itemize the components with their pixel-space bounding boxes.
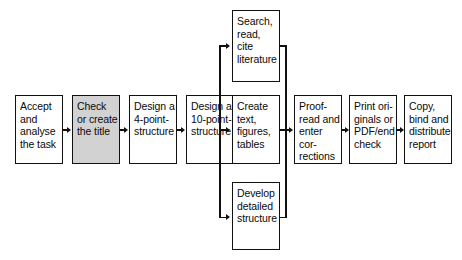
arrowhead-check-to-four	[124, 127, 128, 133]
connector-search-to-merge	[280, 45, 287, 47]
arrowhead-print-to-copy	[400, 127, 404, 133]
arrowhead-split-to-search	[226, 43, 230, 49]
arrowhead-split-to-develop	[226, 214, 230, 220]
node-accept-task[interactable]: Accept and analyse the task	[15, 95, 63, 164]
arrowhead-merge-to-proofread	[289, 127, 293, 133]
node-copy-distribute[interactable]: Copy, bind and distribute report	[404, 95, 452, 164]
arrowhead-proofread-to-print	[345, 127, 349, 133]
node-search-literature[interactable]: Search, read, cite literature	[232, 10, 280, 82]
node-four-point-structure[interactable]: Design a 4-point- structure	[129, 95, 177, 164]
arrowhead-split-to-create	[226, 127, 230, 133]
arrowhead-accept-to-check	[67, 127, 71, 133]
arrowhead-four-to-ten	[181, 127, 185, 133]
merge-bus-vertical	[285, 45, 287, 218]
node-check-title[interactable]: Check or create the title	[72, 95, 120, 164]
connector-develop-to-merge	[280, 217, 287, 219]
node-print-originals[interactable]: Print ori- ginals or PDF/end check	[349, 95, 397, 164]
node-proofread[interactable]: Proof- read and enter cor- rections	[294, 95, 342, 164]
node-create-text[interactable]: Create text, figures, tables	[232, 95, 280, 164]
node-develop-structure[interactable]: Develop detailed structure	[232, 182, 280, 250]
split-bus-vertical	[219, 45, 221, 218]
flowchart-diagram: Accept and analyse the task Check or cre…	[0, 0, 462, 260]
